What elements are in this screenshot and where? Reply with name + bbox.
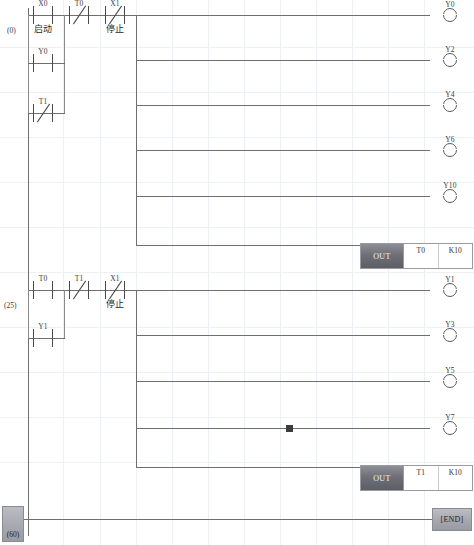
contact-t0[interactable] [30,281,56,299]
contact-x1-nc[interactable] [102,281,128,299]
contact-t1-nc[interactable] [30,104,56,122]
contact-y0[interactable] [30,54,56,72]
instruction-op-label: OUT [361,466,404,490]
contact-x1-nc[interactable] [102,6,128,24]
grid-guide [0,372,474,373]
coil-y7[interactable] [443,421,457,435]
coil-y10[interactable] [443,189,457,203]
output-bus-rung2 [136,290,137,467]
end-step-number: (60) [2,506,24,542]
instruction-out-t1[interactable]: OUT T1 K10 [360,465,473,491]
coil-wire-y6 [136,150,430,151]
coil-y1[interactable] [443,283,457,297]
coil-y2[interactable] [443,53,457,67]
nc-slash-icon [71,280,88,300]
grid-guide [0,92,474,93]
nc-slash-icon [71,5,88,25]
contact-y1[interactable] [30,329,56,347]
coil-y0-label: Y0 [434,1,466,9]
grid-guide [0,182,474,183]
edit-cursor-marker[interactable] [286,425,293,432]
contact-t1-nc[interactable] [66,281,92,299]
contact-y1-label: Y1 [24,323,62,331]
rung-step-number: (0) [7,26,16,35]
coil-y5[interactable] [443,374,457,388]
coil-wire-y7 [136,428,430,429]
output-bus-rung1 [136,15,137,245]
coil-y7-label: Y7 [434,414,466,422]
contact-t0-label: T0 [60,0,98,8]
grid-guide [0,137,474,138]
instruction-wire-rung2 [136,467,360,468]
contact-x0[interactable] [30,6,56,24]
grid-guide [0,327,474,328]
coil-y0[interactable] [443,8,457,22]
contact-x1-comment: 停止 [94,299,136,309]
coil-wire-y10 [136,196,430,197]
contact-y0-label: Y0 [24,48,62,56]
contact-x1-label: X1 [96,0,134,8]
nc-slash-icon [107,5,124,25]
grid-guide [0,47,474,48]
end-rung-wire [24,519,434,520]
coil-y3[interactable] [443,328,457,342]
contact-t0-label: T0 [24,275,62,283]
instruction-arg-timer: T0 [404,244,439,268]
grid-guide [0,227,474,228]
instruction-op-label: OUT [361,244,404,268]
coil-y4[interactable] [443,98,457,112]
coil-y10-label: Y10 [432,182,468,190]
coil-wire-y5 [136,381,430,382]
contact-x1-label: X1 [96,275,134,283]
instruction-out-t0[interactable]: OUT T0 K10 [360,243,473,269]
rung-step-number: (25) [4,301,17,310]
grid-guide [0,272,474,273]
instruction-arg-preset: K10 [439,466,473,490]
coil-y5-label: Y5 [434,367,466,375]
ladder-diagram-canvas[interactable]: (0) X0 启动 T0 X1 停止 Y0 T1 Y0 Y2 [0,0,474,545]
grid-guide [0,462,474,463]
instruction-wire-rung1 [136,245,360,246]
instruction-arg-preset: K10 [439,244,473,268]
contact-t0-nc[interactable] [66,6,92,24]
coil-y6[interactable] [443,143,457,157]
nc-slash-icon [35,103,52,123]
contact-x1-comment: 停止 [94,24,136,34]
nc-slash-icon [107,280,124,300]
contact-t1-label: T1 [60,275,98,283]
coil-y1-label: Y1 [434,276,466,284]
coil-y2-label: Y2 [434,46,466,54]
coil-wire-y3 [136,335,430,336]
coil-y6-label: Y6 [434,136,466,144]
coil-y3-label: Y3 [434,321,466,329]
instruction-arg-timer: T1 [404,466,439,490]
end-instruction-block[interactable]: [END] [432,508,472,531]
contact-t1-label: T1 [24,98,62,106]
coil-wire-y4 [136,105,430,106]
coil-wire-y2 [136,60,430,61]
coil-y4-label: Y4 [434,91,466,99]
grid-guide [0,417,474,418]
contact-x0-label: X0 [24,0,62,8]
branch-connector-right [64,15,65,113]
branch-connector-right [64,290,65,338]
